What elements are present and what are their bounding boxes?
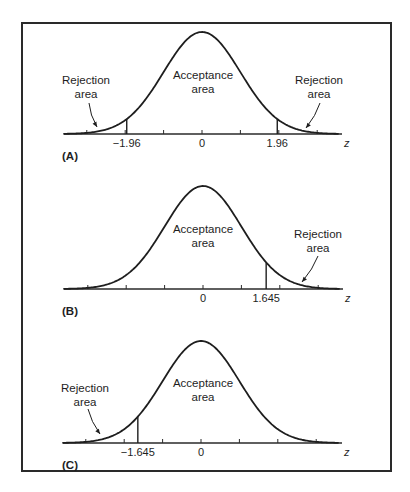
acceptance-area-label-line2: area [191, 237, 215, 249]
rejection-area-label: Rejection [61, 382, 109, 394]
acceptance-area-label: Acceptance [173, 69, 233, 81]
panel-b-right-tailed: 01.645z(B)AcceptanceareaRejectionarea [62, 186, 351, 317]
z-tick-label: 0 [199, 137, 205, 149]
panel-c-left-tailed: −1.6450z(C)AcceptanceareaRejectionarea [61, 341, 350, 471]
panel-a-two-tailed: −1.9601.96z(A)AcceptanceareaRejectionare… [62, 32, 350, 162]
rejection-area-label-line2: area [74, 88, 98, 100]
z-tick-label: 0 [198, 446, 204, 458]
z-tick-label: 0 [200, 292, 206, 304]
panel-label: (C) [62, 459, 78, 471]
arrowhead-icon [95, 429, 100, 434]
panel-label: (A) [62, 150, 78, 162]
panel-label: (B) [62, 305, 78, 317]
curve-gap [98, 124, 102, 128]
arrowhead-icon [306, 123, 311, 128]
z-tick-label: −1.645 [121, 446, 155, 458]
rejection-area-label-line2: area [307, 88, 331, 100]
z-axis-label: z [343, 446, 350, 458]
rejection-area-label: Rejection [62, 74, 110, 86]
z-axis-label: z [343, 137, 350, 149]
z-tick-label: 1.96 [267, 137, 288, 149]
curve-gap [297, 279, 301, 283]
curve-gap [301, 125, 305, 129]
curve-gap [101, 431, 105, 435]
rejection-area-label-line2: area [306, 242, 330, 254]
rejection-area-label: Rejection [295, 74, 343, 86]
acceptance-area-label-line2: area [191, 391, 215, 403]
acceptance-area-label: Acceptance [173, 377, 233, 389]
z-tick-label: −1.96 [113, 137, 141, 149]
acceptance-area-label: Acceptance [173, 223, 233, 235]
z-tick-label: 1.645 [252, 292, 280, 304]
rejection-area-label: Rejection [294, 228, 342, 240]
hypothesis-test-diagram: −1.9601.96z(A)AcceptanceareaRejectionare… [0, 0, 410, 492]
rejection-area-label-line2: area [73, 396, 97, 408]
z-axis-label: z [344, 292, 351, 304]
acceptance-area-label-line2: area [191, 83, 215, 95]
